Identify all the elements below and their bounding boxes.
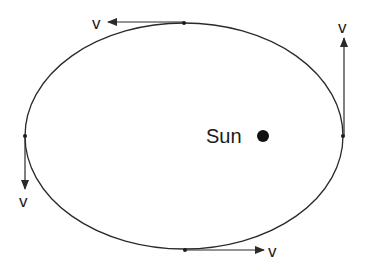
velocity-label-right: v: [338, 18, 347, 37]
velocity-label-bottom: v: [268, 242, 277, 261]
sun-icon: [257, 130, 269, 142]
sun-label: Sun: [206, 125, 242, 147]
velocity-label-left: v: [19, 192, 28, 211]
orbit-ellipse: [25, 23, 343, 249]
orbit-diagram: v v v v Sun: [0, 0, 373, 265]
velocity-label-top: v: [92, 14, 101, 33]
